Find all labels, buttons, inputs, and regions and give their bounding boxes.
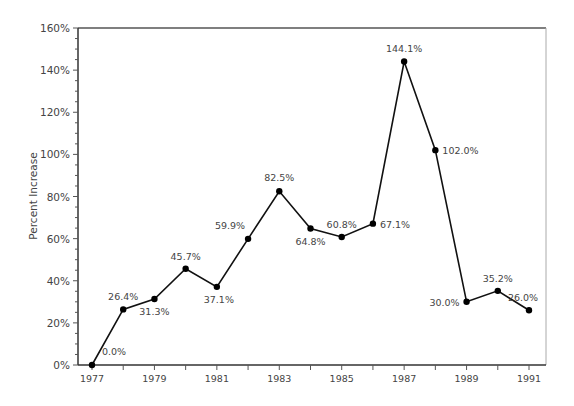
y-tick-label: 100% (40, 148, 70, 160)
y-tick-label: 40% (47, 275, 70, 287)
data-label: 26.4% (108, 291, 138, 302)
x-tick-label: 1977 (80, 373, 104, 384)
x-tick-label: 1987 (392, 373, 416, 384)
data-point (245, 236, 251, 242)
x-tick-label: 1991 (517, 373, 541, 384)
y-tick-label: 80% (47, 191, 70, 203)
data-label: 67.1% (380, 219, 410, 230)
data-label: 0.0% (102, 346, 126, 357)
data-point (526, 307, 532, 313)
data-label: 31.3% (139, 306, 169, 317)
y-tick-label: 20% (47, 317, 70, 329)
data-point (151, 296, 157, 302)
y-tick-label: 140% (40, 64, 70, 76)
data-label: 35.2% (483, 273, 513, 284)
x-tick-label: 1989 (454, 373, 478, 384)
x-tick-label: 1979 (142, 373, 166, 384)
data-point (432, 147, 438, 153)
data-point (214, 284, 220, 290)
y-axis-title: Percent Increase (27, 152, 39, 239)
data-point (307, 225, 313, 231)
y-axis: 0%20%40%60%80%100%120%140%160% (40, 22, 78, 371)
x-axis: 19771979198119831985198719891991 (78, 365, 546, 384)
data-point (370, 220, 376, 226)
data-label: 45.7% (171, 251, 201, 262)
line-chart: 0%20%40%60%80%100%120%140%160% 197719791… (0, 0, 574, 406)
y-tick-label: 0% (53, 359, 70, 371)
data-point (182, 266, 188, 272)
data-point (339, 234, 345, 240)
data-label: 60.8% (327, 219, 357, 230)
data-label: 64.8% (295, 236, 325, 247)
data-point (401, 58, 407, 64)
data-label: 26.0% (508, 292, 538, 303)
y-tick-label: 160% (40, 22, 70, 34)
data-series: 0.0%26.4%31.3%45.7%37.1%59.9%82.5%64.8%6… (89, 43, 538, 368)
data-label: 144.1% (386, 43, 422, 54)
data-point (463, 299, 469, 305)
data-point (276, 188, 282, 194)
y-tick-label: 120% (40, 106, 70, 118)
data-label: 82.5% (264, 172, 294, 183)
data-label: 37.1% (204, 294, 234, 305)
data-label: 59.9% (215, 220, 245, 231)
data-label: 102.0% (442, 145, 478, 156)
data-point (120, 306, 126, 312)
x-tick-label: 1983 (267, 373, 291, 384)
data-point (89, 362, 95, 368)
x-tick-label: 1981 (205, 373, 229, 384)
data-label: 30.0% (429, 297, 459, 308)
series-line (92, 61, 529, 365)
y-tick-label: 60% (47, 233, 70, 245)
x-tick-label: 1985 (330, 373, 354, 384)
data-point (495, 288, 501, 294)
